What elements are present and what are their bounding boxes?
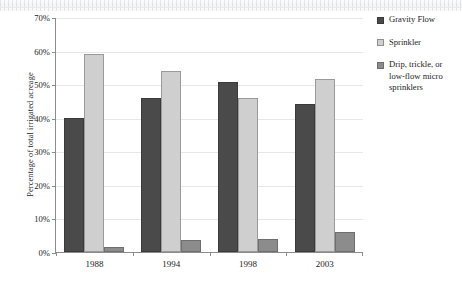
legend-label-line-1: Drip, trickle, or (389, 59, 442, 69)
bar-group (56, 17, 133, 252)
bar[interactable] (258, 239, 278, 252)
x-axis-tick-mark (362, 252, 363, 256)
bar[interactable] (84, 54, 104, 252)
bar[interactable] (181, 240, 201, 252)
y-axis-tick-label: 20% (34, 181, 50, 191)
y-axis-tick-label: 10% (34, 214, 50, 224)
x-axis-tick-mark (56, 252, 57, 256)
x-axis-tick-label: 2003 (316, 259, 334, 269)
bar[interactable] (218, 82, 238, 252)
y-axis-tick-label: 60% (34, 47, 50, 57)
legend-item-gravity-flow[interactable]: Gravity Flow (377, 14, 462, 26)
y-axis-tick-label: 0% (39, 248, 50, 258)
bar[interactable] (315, 79, 335, 252)
bar-group (133, 17, 210, 252)
legend-label-line-3: sprinklers (389, 82, 423, 92)
bar[interactable] (64, 118, 84, 252)
bar-group (210, 17, 287, 252)
legend-item-label: Gravity Flow (389, 14, 435, 26)
legend-item-label: Sprinkler (389, 37, 421, 49)
bar-group (286, 17, 363, 252)
legend-item-sprinkler[interactable]: Sprinkler (377, 37, 462, 49)
y-axis-tick-label: 50% (34, 80, 50, 90)
legend-swatch-icon (377, 62, 384, 69)
legend-label-line-2: low-flow micro (389, 71, 443, 81)
y-axis-title: Percentage of total irrigated acreage (26, 35, 35, 235)
y-axis-tick-label: 40% (34, 114, 50, 124)
bar[interactable] (161, 71, 181, 252)
bars-layer (56, 17, 363, 252)
bar[interactable] (238, 98, 258, 252)
y-axis-tick-label: 30% (34, 147, 50, 157)
legend-item-drip-micro-sprinklers[interactable]: Drip, trickle, orlow-flow microsprinkler… (377, 59, 462, 94)
legend: Gravity Flow Sprinkler Drip, trickle, or… (377, 14, 462, 105)
x-axis-tick-label: 1994 (162, 259, 180, 269)
bar[interactable] (295, 104, 315, 252)
x-axis-tick-mark (133, 252, 134, 256)
y-axis-tick-label: 70% (34, 13, 50, 23)
x-axis-tick-label: 1998 (239, 259, 257, 269)
bar[interactable] (104, 247, 124, 252)
legend-swatch-icon (377, 39, 384, 46)
plot-area: 0%10%20%30%40%50%60%70% 1988199419982003 (55, 18, 362, 253)
x-axis-tick-mark (286, 252, 287, 256)
bar[interactable] (335, 232, 355, 252)
legend-item-label: Drip, trickle, orlow-flow microsprinkler… (389, 59, 443, 94)
legend-swatch-icon (377, 17, 384, 24)
bar-chart: Percentage of total irrigated acreage 0%… (0, 0, 462, 286)
x-axis-tick-mark (210, 252, 211, 256)
bar[interactable] (141, 98, 161, 252)
x-axis-tick-label: 1988 (85, 259, 103, 269)
